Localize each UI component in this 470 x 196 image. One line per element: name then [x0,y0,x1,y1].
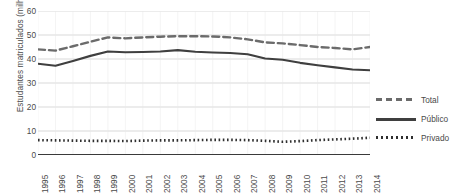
x-tick-label: 2012 [339,175,347,193]
x-tick-label: 2003 [181,175,189,193]
x-axis-tick-labels: 1995199619971998199920002001200220032004… [38,157,370,196]
legend-item-total: Total [376,90,470,109]
legend-label-publico: Público [421,114,448,124]
series-line-privado [38,138,370,142]
x-tick-label: 1998 [94,175,102,193]
x-tick-label: 2009 [286,175,294,193]
x-tick-label: 1997 [77,175,85,193]
legend-label-privado: Privado [421,133,449,143]
x-tick-label: 2004 [199,175,207,193]
y-tick-label: 50 [18,31,36,39]
legend-item-privado: Privado [376,128,470,147]
plot-svg [38,11,370,155]
x-tick-label: 2008 [269,175,277,193]
x-tick-label: 2002 [164,175,172,193]
y-tick-label: 40 [18,55,36,63]
legend-label-total: Total [421,95,439,105]
x-tick-label: 2005 [216,175,224,193]
y-tick-label: 30 [18,79,36,87]
chart-legend: Total Público Privado [376,90,470,147]
series-lines [38,36,370,142]
series-line-publico [38,50,370,70]
y-tick-label: 10 [18,127,36,135]
enrollment-line-chart: Estudantes matriculados (milhões) 010203… [0,0,470,196]
legend-item-publico: Público [376,109,470,128]
x-tick-label: 2006 [234,175,242,193]
x-tick-label: 2007 [251,175,259,193]
plot-area [38,11,370,155]
y-tick-label: 20 [18,103,36,111]
x-tick-label: 2014 [374,175,382,193]
y-tick-label: 60 [18,7,36,15]
x-tick-label: 1996 [59,175,67,193]
legend-swatch-publico [376,114,416,124]
x-tick-label: 2011 [321,175,329,193]
x-tick-label: 1995 [42,175,50,193]
x-tick-label: 2010 [304,175,312,193]
gridlines [38,11,370,155]
y-axis-tick-labels: 0102030405060 [16,0,36,196]
legend-swatch-total [376,98,416,101]
x-tick-label: 2001 [146,175,154,193]
y-tick-label: 0 [18,151,36,159]
x-tick-label: 2000 [129,175,137,193]
x-tick-label: 2013 [356,175,364,193]
series-line-total [38,36,370,50]
x-tick-label: 1999 [111,175,119,193]
legend-swatch-privado [376,136,416,139]
